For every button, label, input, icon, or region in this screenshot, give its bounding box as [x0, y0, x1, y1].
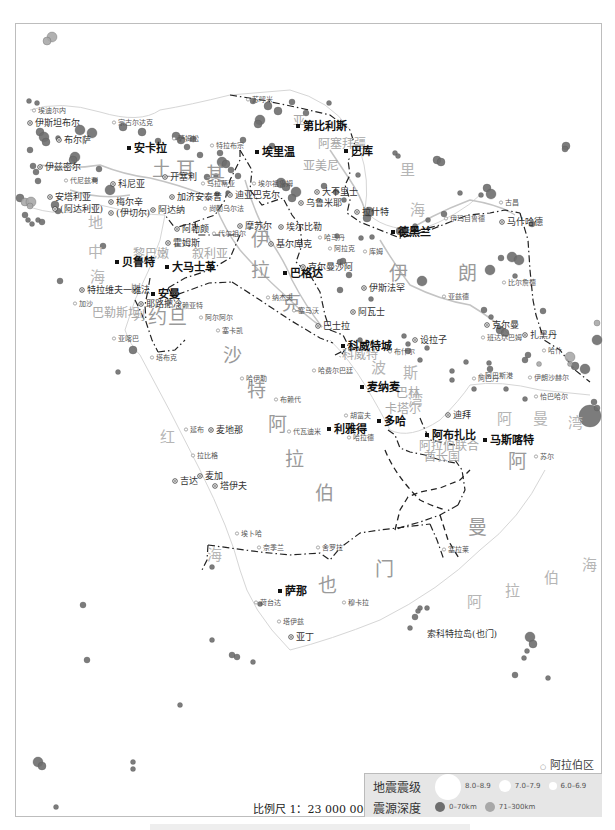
earthquake-marker — [486, 189, 496, 199]
city-marker-dot — [112, 183, 114, 185]
earthquake-marker — [27, 147, 33, 153]
region-label: 亚美尼 — [303, 159, 339, 173]
city-marker-dot — [270, 243, 272, 245]
town-marker-icon — [199, 316, 202, 319]
earthquake-marker — [425, 606, 430, 611]
capital-square-icon — [151, 292, 155, 296]
city-marker-dot — [363, 287, 365, 289]
earthquake-marker — [450, 369, 455, 374]
earthquake-marker — [235, 173, 241, 179]
city-marker-dot — [210, 429, 212, 431]
town-marker-icon — [112, 337, 115, 340]
town-label: 宗古尔达克 — [118, 118, 153, 127]
town-marker-icon — [344, 414, 347, 417]
earthquake-marker — [131, 767, 136, 772]
earthquake-marker — [525, 649, 530, 654]
town-label: 塔伊兹 — [283, 617, 304, 626]
sea-label: 海 — [207, 546, 222, 564]
city-label: 安塔利亚 — [55, 191, 91, 202]
town-label: 塔布克 — [156, 353, 177, 362]
city-label: 阿达纳 — [158, 204, 185, 215]
legend-magnitude-7: 7.0–7.9 — [499, 780, 541, 792]
town-label: 恰巴哈尔 — [540, 392, 568, 401]
earthquake-marker — [210, 638, 215, 643]
country-label: 曼 — [468, 516, 487, 538]
earthquake-marker — [580, 364, 590, 374]
capital-square-icon — [255, 150, 259, 154]
city-label: 梅尔辛 — [116, 196, 143, 207]
country-label: 伊 — [389, 262, 408, 284]
town-label: 布什尔 — [394, 347, 415, 356]
town-marker-icon — [542, 349, 545, 352]
earthquake-marker — [498, 255, 504, 261]
earthquake-marker — [594, 405, 600, 411]
earthquake-marker — [26, 218, 31, 223]
sea-label: 海 — [582, 556, 597, 574]
legend-magnitude-row: 地震震级 8.0–8.9 7.0–7.9 6.0–6.9 — [365, 776, 594, 796]
country-label: 阿 — [268, 413, 287, 435]
city-label: 麦加 — [205, 470, 223, 481]
earthquake-marker — [38, 762, 46, 770]
earthquake-marker — [210, 565, 215, 570]
town-label: 哈伊勒 — [246, 374, 267, 383]
earthquake-marker — [27, 99, 32, 104]
sea-label: 海 — [90, 268, 105, 286]
town-marker-icon — [201, 182, 204, 185]
city-marker-dot — [164, 176, 166, 178]
town-marker-icon — [246, 98, 249, 101]
capital-square-icon — [165, 265, 169, 269]
capital-square-icon — [115, 260, 119, 264]
scale-label: 比例尺 1：23 000 000 — [253, 800, 370, 816]
city-label: 克尔曼沙阿 — [308, 261, 353, 272]
earthquake-marker — [441, 211, 447, 217]
earthquake-marker — [512, 672, 518, 678]
city-marker-dot — [167, 242, 169, 244]
city-label: 迪亚巴克尔 — [235, 189, 280, 200]
sea-label: 斯 — [403, 364, 418, 382]
town-marker-icon — [112, 121, 115, 124]
town-marker-icon — [235, 532, 238, 535]
earthquake-marker — [450, 378, 455, 383]
town-label: 哈马丹 — [324, 233, 345, 242]
town-marker-icon — [481, 336, 484, 339]
capital-square-icon — [341, 344, 345, 348]
borders — [135, 95, 590, 570]
town-marker-icon — [73, 302, 76, 305]
city-marker-dot — [58, 139, 60, 141]
figure-caption-cutoff — [150, 824, 470, 830]
country-label: 土 — [152, 158, 171, 180]
town-marker-icon — [277, 620, 280, 623]
town-label: 塞马沃 — [298, 306, 319, 315]
city-marker-dot — [300, 202, 302, 204]
capital-square-icon — [283, 271, 287, 275]
town-marker-icon — [472, 377, 475, 380]
earthquake-marker — [356, 173, 361, 178]
earthquake-marker — [84, 657, 90, 663]
capital-square-icon — [360, 385, 364, 389]
town-label: 埃迪尔内 — [38, 106, 66, 115]
earthquake-marker — [30, 163, 36, 169]
legend-magnitude-8: 8.0–8.9 — [435, 772, 491, 800]
town-label: 代瓦迪米 — [293, 427, 321, 436]
town-label: 苏呼米 — [252, 95, 273, 104]
town-label: 萨姆松 — [178, 134, 199, 143]
capital-label: 萨那 — [285, 584, 307, 598]
city-label: 伊斯坦布尔 — [35, 117, 80, 128]
city-marker-dot — [140, 303, 142, 305]
town-label: 马拉蒂亚 — [207, 179, 235, 188]
earthquake-marker — [274, 107, 282, 115]
earthquake-marker — [417, 276, 427, 286]
city-label: 阿勒颇 — [182, 223, 209, 234]
earthquake-marker — [33, 169, 39, 175]
earthquake-marker — [197, 152, 203, 158]
capital-square-icon — [425, 433, 429, 437]
capital-label: 大马士革 — [172, 260, 216, 274]
town-marker-icon — [254, 601, 257, 604]
earthquake-marker — [594, 320, 600, 326]
town-label: 亚喀巴 — [118, 334, 139, 343]
earthquake-marker — [30, 222, 35, 227]
earthquake-marker — [458, 191, 463, 196]
capital-label: 埃里温 — [262, 145, 295, 159]
city-marker-dot — [49, 196, 51, 198]
capital-label: 麦纳麦 — [367, 380, 401, 394]
